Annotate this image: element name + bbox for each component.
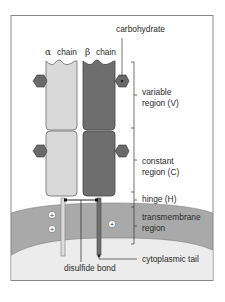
label-alpha-symbol: α xyxy=(45,47,51,57)
tcr-diagram: + + + carbohydrate α chain β chain varia… xyxy=(0,0,225,302)
alpha-constant-domain xyxy=(46,131,77,196)
label-disulfide-bond: disulfide bond xyxy=(64,263,116,273)
label-carbohydrate: carbohydrate xyxy=(116,24,165,34)
label-cytoplasmic-tail: cytoplasmic tail xyxy=(142,254,199,264)
svg-text:+: + xyxy=(110,221,114,228)
alpha-variable-domain xyxy=(46,60,77,130)
label-beta-chain: chain xyxy=(96,47,116,57)
svg-text:+: + xyxy=(50,212,54,219)
beta-chain-transmembrane xyxy=(97,198,101,255)
positive-charge-icon: + xyxy=(108,220,115,227)
svg-text:+: + xyxy=(50,226,54,233)
label-constant-1: constant xyxy=(142,156,174,166)
label-variable-2: region (V) xyxy=(142,98,179,108)
label-transmembrane-2: region xyxy=(142,223,166,233)
label-beta-symbol: β xyxy=(85,47,90,57)
label-constant-2: region (C) xyxy=(142,167,179,177)
label-variable-1: variable xyxy=(142,87,172,97)
label-hinge: hinge (H) xyxy=(142,194,177,204)
label-alpha-chain: chain xyxy=(57,47,77,57)
beta-variable-domain xyxy=(83,60,115,130)
positive-charge-icon: + xyxy=(48,211,55,218)
beta-constant-domain xyxy=(83,131,115,196)
label-transmembrane-1: transmembrane xyxy=(142,212,201,222)
alpha-chain-transmembrane xyxy=(61,198,65,256)
positive-charge-icon: + xyxy=(48,225,55,232)
